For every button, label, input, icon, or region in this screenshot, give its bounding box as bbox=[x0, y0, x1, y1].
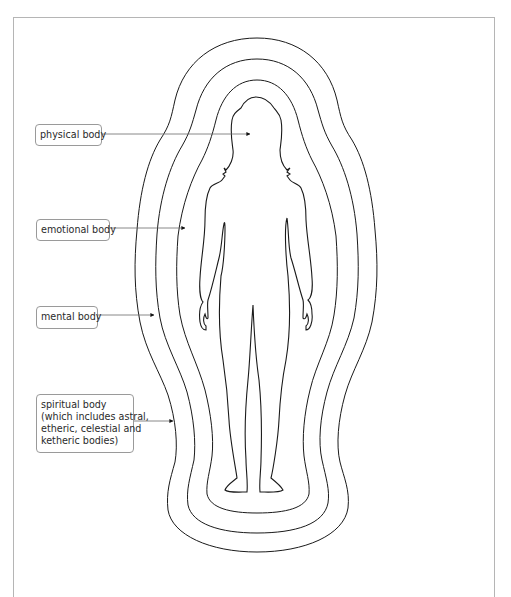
label-text: physical body bbox=[40, 129, 106, 140]
label-spiritual-body: spiritual body (which includes astral, e… bbox=[36, 394, 134, 453]
label-text: mental body bbox=[41, 311, 101, 322]
label-mental-body: mental body bbox=[36, 306, 98, 329]
label-text-line: spiritual body bbox=[41, 399, 129, 411]
human-silhouette bbox=[200, 97, 313, 492]
label-emotional-body: emotional body bbox=[36, 219, 110, 241]
label-text-line: etheric, celestial and bbox=[41, 423, 129, 435]
label-text: emotional body bbox=[41, 224, 116, 235]
label-text-line: ketheric bodies) bbox=[41, 435, 129, 447]
middle-aura-contour bbox=[156, 59, 358, 533]
outer-aura-contour bbox=[135, 38, 377, 552]
label-text-line: (which includes astral, bbox=[41, 411, 129, 423]
label-physical-body: physical body bbox=[35, 124, 102, 146]
